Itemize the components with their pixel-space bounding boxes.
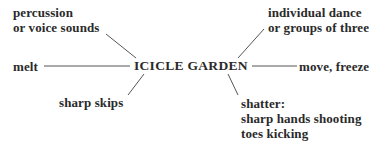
node-skips: sharp skips [59, 95, 123, 110]
node-shatter: shatter: sharp hands shooting toes kicki… [241, 96, 362, 141]
node-percussion: percussion or voice sounds [13, 5, 100, 35]
center-node: ICICLE GARDEN [134, 58, 248, 73]
node-line: sharp hands shooting [241, 111, 362, 126]
node-melt: melt [13, 59, 38, 74]
node-line: shatter: [241, 96, 362, 111]
node-line: toes kicking [241, 126, 362, 141]
line-to-percussion [106, 34, 136, 58]
line-to-skips [128, 74, 144, 95]
node-line: or groups of three [268, 20, 369, 35]
node-move: move, freeze [299, 59, 369, 74]
line-to-shatter [228, 74, 238, 95]
node-line: percussion [13, 5, 100, 20]
line-to-individual [238, 29, 264, 58]
node-line: move, freeze [299, 59, 369, 74]
node-line: or voice sounds [13, 20, 100, 35]
node-line: melt [13, 59, 38, 74]
node-individual: individual dance or groups of three [268, 5, 369, 35]
node-line: sharp skips [59, 95, 123, 110]
node-line: individual dance [268, 5, 369, 20]
